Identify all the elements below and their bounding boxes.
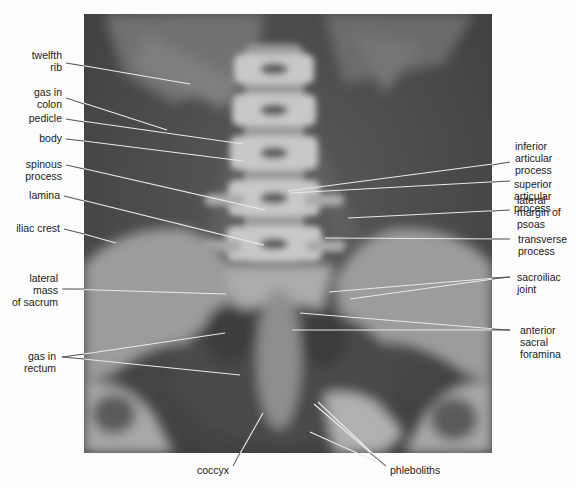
- xray-image: [84, 14, 492, 453]
- label-inferior-articular-process: inferior articular process: [515, 140, 552, 176]
- label-anterior-sacral-foramina: anterior sacral foramina: [520, 324, 561, 360]
- label-coccyx: coccyx: [197, 464, 229, 476]
- label-body: body: [39, 132, 62, 144]
- label-phleboliths: phleboliths: [390, 464, 440, 476]
- label-iliac-crest: iliac crest: [16, 222, 60, 234]
- label-twelfth-rib: twelfth rib: [32, 49, 62, 73]
- label-pedicle: pedicle: [29, 112, 62, 124]
- label-lateral-mass-of-sacrum: lateral mass of sacrum: [12, 272, 58, 308]
- label-gas-in-colon: gas in colon: [34, 86, 62, 110]
- label-spinous-process: spinous process: [25, 158, 62, 182]
- label-gas-in-rectum: gas in rectum: [24, 350, 56, 374]
- label-sacroiliac-joint: sacroiliac joint: [517, 271, 561, 295]
- label-transverse-process: transverse process: [518, 233, 567, 257]
- label-lamina: lamina: [29, 189, 60, 201]
- label-lateral-margin-of-psoas: lateral margin of psoas: [517, 194, 561, 230]
